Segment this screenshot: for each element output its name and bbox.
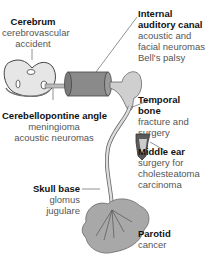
internal-auditory-canal-cylinder <box>65 72 112 96</box>
iac-leader <box>90 17 137 80</box>
parotid-label: Parotid cancer <box>138 228 171 250</box>
cerebellopontine-angle-label: Cerebellopontine angle meningioma acoust… <box>2 110 106 143</box>
skull-base-label: Skull base glomus jugulare <box>10 183 80 216</box>
internal-auditory-canal-label: Internal auditory canal acoustic and fac… <box>138 8 205 63</box>
brain-icon <box>4 60 55 96</box>
facial-nerve-trunk <box>107 106 130 210</box>
temporal-bone-shape <box>110 72 142 111</box>
middle-ear-label: Middle ear surgery for cholesteatoma car… <box>138 146 200 190</box>
temporal-bone-label: Temporal bone fracture and surgery <box>138 94 189 138</box>
cerebrum-label: Cerebrum cerebrovascular accident <box>2 16 64 49</box>
